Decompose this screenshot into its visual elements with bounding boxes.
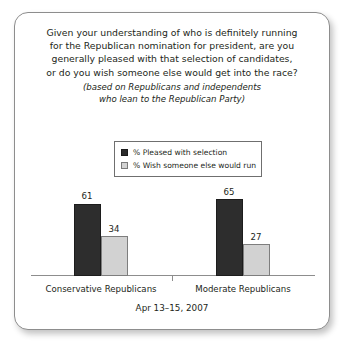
question-line-1: Given your understanding of who is defin… [29,26,315,39]
bar-moderate-wish-someone-else [243,244,270,276]
x-axis-line [31,275,315,276]
legend-swatch-light-icon [121,162,128,169]
axis-tick-divider-icon [172,276,173,281]
legend-label-pleased: % Pleased with selection [133,148,227,157]
legend-label-wish-someone-else: % Wish someone else would run [133,161,256,170]
subtitle-line-2: who lean to the Republican Party) [29,93,315,105]
group-label-conservative-republicans: Conservative Republicans [31,284,171,295]
date-footer: Apr 13–15, 2007 [15,303,329,313]
bar-value-conservative-pleased: 61 [68,191,106,201]
legend-swatch-dark-icon [121,149,128,156]
bar-conservative-wish-someone-else [101,236,128,276]
legend-item-pleased: % Pleased with selection [121,146,255,158]
bar-value-conservative-wish-someone-else: 34 [95,224,133,234]
question-line-2: for the Republican nomination for presid… [29,39,315,52]
bar-value-moderate-wish-someone-else: 27 [237,232,275,242]
bar-conservative-pleased [74,204,101,276]
question-line-4: or do you wish someone else would get in… [29,66,315,79]
chart-legend: % Pleased with selection % Wish someone … [114,141,262,177]
bar-value-moderate-pleased: 65 [210,187,248,197]
poll-chart-card: Given your understanding of who is defin… [14,12,330,330]
question-line-3: generally pleased with that selection of… [29,52,315,65]
bar-moderate-pleased [216,199,243,276]
legend-item-wish-someone-else: % Wish someone else would run [121,159,255,171]
group-label-moderate-republicans: Moderate Republicans [173,284,313,295]
question-subtitle: (based on Republicans and independents w… [29,81,315,106]
question-block: Given your understanding of who is defin… [15,13,329,105]
subtitle-line-1: (based on Republicans and independents [29,81,315,93]
